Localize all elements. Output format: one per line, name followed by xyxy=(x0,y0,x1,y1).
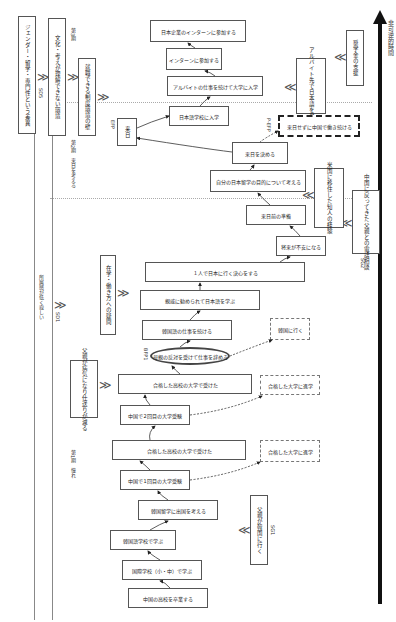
connector-arrows xyxy=(0,0,396,622)
